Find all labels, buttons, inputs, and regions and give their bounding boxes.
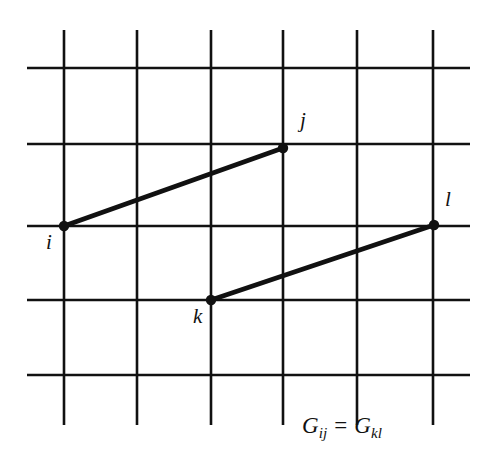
equation-right-symbol: G xyxy=(354,413,371,438)
edge-ij xyxy=(64,148,283,226)
equation-caption: Gij=Gkl xyxy=(302,414,382,440)
node-label-j: j xyxy=(300,110,306,131)
equation-left-symbol: G xyxy=(302,413,319,438)
node-label-i: i xyxy=(46,232,52,253)
lattice-nodes xyxy=(59,143,439,305)
equation-left-subscript: ij xyxy=(319,424,328,441)
lattice-diagram xyxy=(0,0,485,470)
node-point-l xyxy=(429,220,439,230)
figure-canvas: i j k l Gij=Gkl xyxy=(0,0,485,470)
node-point-j xyxy=(278,143,288,153)
vector-edges xyxy=(64,148,434,300)
grid-horizontal-lines xyxy=(27,68,470,375)
node-point-k xyxy=(206,295,216,305)
grid-vertical-lines xyxy=(64,30,433,425)
node-label-k: k xyxy=(193,306,202,327)
node-label-l: l xyxy=(445,189,451,210)
equation-relation: = xyxy=(334,413,347,438)
node-point-i xyxy=(59,221,69,231)
edge-kl xyxy=(211,225,434,300)
equation-right-subscript: kl xyxy=(371,424,382,441)
